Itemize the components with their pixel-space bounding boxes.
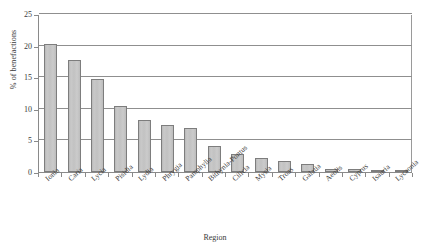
x-tick-16: [412, 173, 413, 177]
x-tick-12: [319, 173, 320, 177]
y-tick-label-10: 10: [2, 106, 32, 114]
x-tick-9: [248, 173, 249, 177]
y-tick-label-25: 25: [2, 11, 32, 19]
x-tick-15: [389, 173, 390, 177]
x-tick-0: [38, 173, 39, 177]
x-tick-2: [85, 173, 86, 177]
x-tick-1: [61, 173, 62, 177]
bar-lycia: [91, 79, 104, 172]
x-tick-5: [155, 173, 156, 177]
y-tick-label-0: 0: [2, 169, 32, 177]
bar-ionia: [44, 44, 57, 172]
y-tick-label-20: 20: [2, 43, 32, 51]
x-tick-6: [178, 173, 179, 177]
bar-caria: [68, 60, 81, 172]
x-tick-11: [295, 173, 296, 177]
bar-pisidia: [114, 106, 127, 172]
bars-layer: [39, 15, 412, 172]
x-tick-8: [225, 173, 226, 177]
gridline-25: [39, 13, 412, 14]
bar-chart: % of benefactions 0510152025 IoniaCariaL…: [0, 0, 430, 252]
x-tick-4: [132, 173, 133, 177]
y-tick-label-5: 5: [2, 137, 32, 145]
x-axis-title: Region: [0, 233, 430, 242]
x-tick-13: [342, 173, 343, 177]
x-tick-10: [272, 173, 273, 177]
plot-area: [38, 15, 412, 173]
x-tick-14: [365, 173, 366, 177]
y-tick-label-15: 15: [2, 74, 32, 82]
x-tick-3: [108, 173, 109, 177]
x-tick-7: [202, 173, 203, 177]
